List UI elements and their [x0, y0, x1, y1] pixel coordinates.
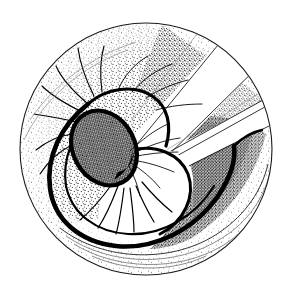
figure-container: Circular stippled ink illustration Black…	[0, 0, 291, 296]
illustration-canvas	[0, 0, 291, 296]
